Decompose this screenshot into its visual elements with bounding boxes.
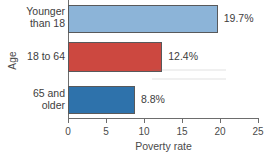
x-axis-tick	[144, 118, 145, 123]
x-axis-tick	[68, 118, 69, 123]
category-label-18-to-64: 18 to 64	[1, 51, 65, 63]
category-label-65-and-older: 65 and older	[1, 88, 65, 111]
x-axis-tick	[106, 118, 107, 123]
poverty-rate-bar-chart: Age Younger than 18 18 to 64 65 and olde…	[0, 0, 269, 157]
value-label-younger-than-18: 19.7%	[224, 12, 254, 24]
category-label-line2: older	[1, 100, 65, 112]
x-axis-tick-label: 20	[208, 126, 232, 137]
value-label-18-to-64: 12.4%	[168, 50, 198, 62]
category-label-younger-than-18: Younger than 18	[1, 6, 65, 29]
category-label-line1: 65 and	[1, 88, 65, 100]
bar-65-and-older	[68, 86, 135, 114]
x-axis-line	[68, 118, 259, 119]
value-label-65-and-older: 8.8%	[141, 93, 165, 105]
x-axis-tick	[220, 118, 221, 123]
x-axis-tick-label: 0	[56, 126, 80, 137]
x-axis-tick-label: 15	[170, 126, 194, 137]
category-label-line2: than 18	[1, 18, 65, 30]
bar-18-to-64	[68, 42, 162, 72]
bar-younger-than-18	[68, 5, 218, 33]
scan-artifact	[152, 66, 226, 88]
x-axis-tick-label: 5	[94, 126, 118, 137]
x-axis-tick	[258, 118, 259, 123]
x-axis-tick	[182, 118, 183, 123]
category-label-line1: Younger	[1, 6, 65, 18]
x-axis-tick-label: 10	[132, 126, 156, 137]
x-axis-tick-label: 25	[246, 126, 269, 137]
category-label-line1: 18 to 64	[1, 51, 65, 63]
x-axis-title: Poverty rate	[68, 140, 259, 152]
